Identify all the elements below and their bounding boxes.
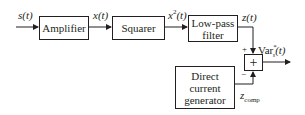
dc-line3: generator: [184, 94, 226, 106]
dc-line2: current: [189, 82, 220, 94]
signal-x-squared-label: x2(t): [168, 8, 187, 21]
signal-x-label: x(t): [93, 9, 108, 21]
var-tail: (t): [275, 44, 285, 56]
minus-sign-label: −: [241, 69, 246, 79]
output-var-label: Var*s(t): [258, 43, 286, 58]
lpf-line1: Low-pass: [192, 17, 235, 29]
dc-generator-block: Direct current generator: [175, 66, 235, 109]
signal-s-label: s(t): [18, 9, 33, 21]
lowpass-filter-block: Low-pass filter: [188, 15, 238, 42]
amplifier-block: Amplifier: [39, 16, 89, 40]
var-base: Var: [258, 44, 273, 56]
zcomp-sub: comp: [244, 96, 260, 104]
lpf-line2: filter: [202, 29, 223, 41]
x2-tail: (t): [176, 9, 186, 21]
plus-sign-label: +: [242, 44, 247, 54]
z-comp-label: zcomp: [240, 89, 260, 104]
signal-z-label: z(t): [242, 11, 257, 23]
dc-line1: Direct: [191, 70, 218, 82]
squarer-block: Squarer: [112, 16, 165, 40]
